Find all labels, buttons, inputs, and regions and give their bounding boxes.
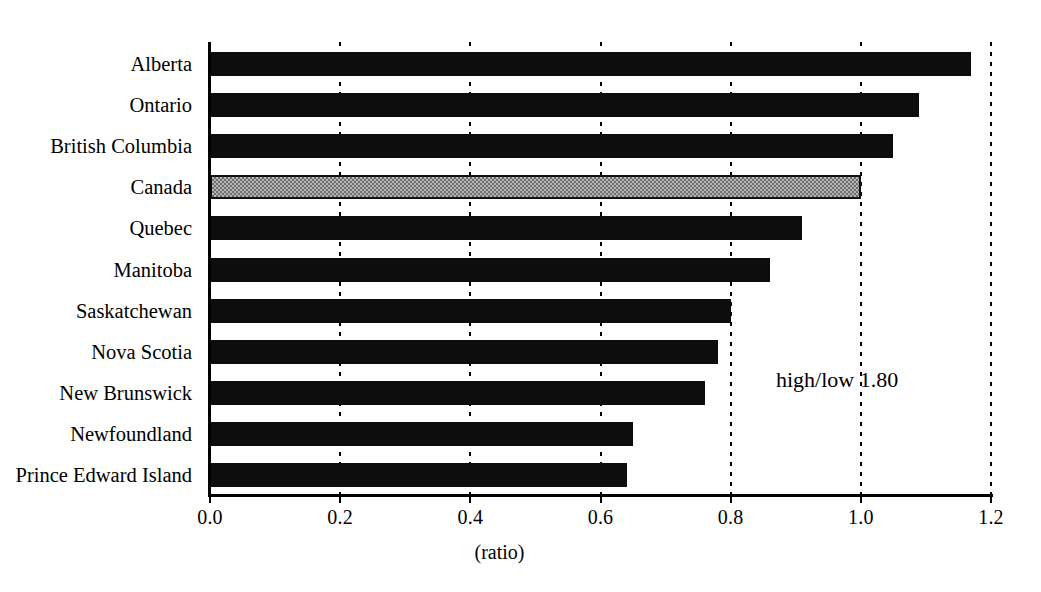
tick-mark-0.6 <box>600 494 602 503</box>
category-label: Nova Scotia <box>91 340 192 364</box>
bar-row: Prince Edward Island <box>0 463 1041 487</box>
category-label: British Columbia <box>50 134 192 158</box>
bar-chart: AlbertaOntarioBritish ColumbiaCanadaQueb… <box>0 0 1041 592</box>
category-label: Manitoba <box>113 258 192 282</box>
bar <box>210 52 971 76</box>
tick-mark-1.0 <box>860 494 862 503</box>
bar <box>210 422 633 446</box>
tick-mark-1.2 <box>990 494 992 503</box>
bar <box>210 134 893 158</box>
x-tick-label: 1.0 <box>848 506 874 529</box>
bar <box>210 463 627 487</box>
bar-row: Nova Scotia <box>0 340 1041 364</box>
x-tick-label: 0.6 <box>588 506 614 529</box>
bar-row: Newfoundland <box>0 422 1041 446</box>
bar-row: Canada <box>0 175 1041 199</box>
tick-mark-0.2 <box>339 494 341 503</box>
tick-mark-0.0 <box>209 494 211 503</box>
category-label: Saskatchewan <box>76 299 192 323</box>
x-tick-label: 1.2 <box>978 506 1004 529</box>
bar-row: Alberta <box>0 52 1041 76</box>
category-label: Quebec <box>129 216 192 240</box>
bar-row: Saskatchewan <box>0 299 1041 323</box>
bar <box>210 216 802 240</box>
bar-row: Ontario <box>0 93 1041 117</box>
high-low-annotation: high/low 1.80 <box>776 367 898 393</box>
x-tick-label: 0.0 <box>197 506 223 529</box>
category-label: Newfoundland <box>70 422 192 446</box>
category-label: New Brunswick <box>59 381 192 405</box>
category-label: Prince Edward Island <box>16 463 192 487</box>
bar-row: British Columbia <box>0 134 1041 158</box>
bar-highlight <box>210 175 861 199</box>
x-axis-title: (ratio) <box>0 541 1041 564</box>
bar-row: Quebec <box>0 216 1041 240</box>
bar <box>210 258 770 282</box>
tick-mark-0.8 <box>730 494 732 503</box>
x-tick-label: 0.8 <box>718 506 744 529</box>
x-tick-label: 0.4 <box>458 506 484 529</box>
category-label: Ontario <box>129 93 192 117</box>
x-tick-label: 0.2 <box>327 506 353 529</box>
bar <box>210 340 718 364</box>
x-axis-title-text: (ratio) <box>475 541 525 563</box>
bar-row: Manitoba <box>0 258 1041 282</box>
tick-mark-0.4 <box>469 494 471 503</box>
category-label: Canada <box>131 175 192 199</box>
bar <box>210 299 731 323</box>
bar <box>210 381 705 405</box>
y-axis-line <box>208 42 211 496</box>
bar <box>210 93 919 117</box>
category-label: Alberta <box>131 52 192 76</box>
